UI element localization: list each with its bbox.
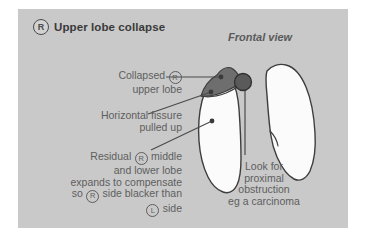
annotation-text: side blacker than <box>100 187 182 199</box>
annotation-proximal-obstruction: Look for proximal obstruction eg a carci… <box>216 161 312 207</box>
annotation-text: Residual <box>90 150 134 162</box>
annotation-text: so <box>72 187 86 199</box>
annotation-text: eg a carcinoma <box>216 196 312 208</box>
page-title: Upper lobe collapse <box>54 21 165 33</box>
annotation-text: pulled up <box>56 122 182 134</box>
annotation-text: Look for <box>216 161 312 173</box>
annotation-line: Collapsed R <box>78 70 182 84</box>
illustration-panel: R Upper lobe collapse Frontal view Colla… <box>18 9 348 228</box>
upper-lobe-collapse-figure: R Upper lobe collapse Frontal view Colla… <box>0 0 366 245</box>
inline-badge-l: L <box>146 204 159 217</box>
annotation-text: middle <box>148 150 182 162</box>
annotation-line: L side <box>32 203 182 217</box>
view-label: Frontal view <box>228 31 292 43</box>
annotation-text: upper lobe <box>78 84 182 96</box>
annotation-text: side <box>160 202 182 214</box>
annotation-horizontal-fissure: Horizontal fissure pulled up <box>56 110 182 133</box>
title-side-badge-r: R <box>33 19 49 35</box>
annotation-collapsed-upper-lobe: Collapsed R upper lobe <box>78 70 182 96</box>
annotation-residual-lobe: Residual R middle and lower lobe expands… <box>32 151 182 217</box>
inline-badge-r: R <box>86 190 99 203</box>
annotation-text: obstruction <box>216 184 312 196</box>
hilar-mass <box>235 74 252 91</box>
annotation-text: Collapsed <box>118 69 168 81</box>
annotation-line: Residual R middle <box>32 151 182 165</box>
figure-title-row: R Upper lobe collapse <box>33 19 165 35</box>
annotation-line: so R side blacker than <box>32 188 182 202</box>
annotation-text: Horizontal fissure <box>56 110 182 122</box>
